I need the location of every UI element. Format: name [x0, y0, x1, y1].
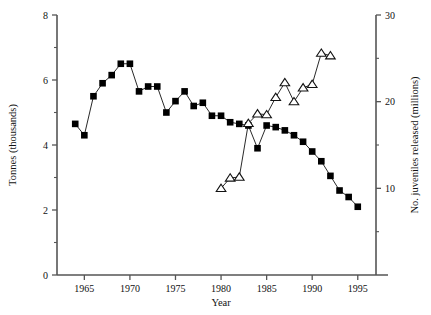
data-point-square [236, 121, 243, 128]
y-ticklabel-left: 2 [43, 205, 48, 216]
data-point-square [327, 173, 334, 180]
data-point-square [291, 132, 298, 139]
data-point-square [200, 99, 207, 106]
data-point-square [181, 88, 188, 95]
y-axis-label-left: Tonnes (thousands) [7, 104, 19, 186]
data-point-square [300, 138, 307, 145]
data-point-square [309, 148, 316, 155]
data-point-square [190, 103, 197, 110]
x-ticklabel: 1995 [348, 283, 368, 294]
data-point-square [172, 98, 179, 105]
data-point-square [209, 112, 216, 119]
data-point-square [318, 158, 325, 165]
data-point-triangle [271, 93, 281, 100]
y-ticklabel-right: 30 [385, 10, 395, 21]
data-point-square [272, 124, 279, 131]
x-ticklabel: 1985 [257, 283, 277, 294]
data-point-square [72, 121, 79, 128]
x-ticklabel: 1980 [211, 283, 231, 294]
data-point-square [218, 112, 225, 119]
data-point-triangle [298, 84, 308, 91]
data-point-square [118, 60, 125, 67]
data-point-square [127, 60, 134, 67]
data-point-square [227, 119, 234, 126]
x-ticklabel: 1975 [165, 283, 185, 294]
data-point-square [108, 72, 115, 79]
data-point-square [136, 88, 143, 95]
data-point-triangle [317, 49, 327, 56]
x-axis-label: Year [211, 297, 231, 308]
y-ticklabel-left: 8 [43, 10, 48, 21]
chart-figure: 024681020301965197019751980198519901995Y… [0, 0, 431, 315]
data-point-square [99, 80, 106, 87]
data-point-square [354, 203, 361, 210]
data-point-square [145, 83, 152, 90]
data-point-square [345, 194, 352, 201]
x-ticklabel: 1970 [120, 283, 140, 294]
data-point-square [254, 145, 261, 152]
y-ticklabel-right: 20 [385, 96, 395, 107]
data-point-triangle [289, 97, 299, 104]
data-point-triangle [253, 110, 263, 117]
y-ticklabel-left: 4 [43, 140, 48, 151]
x-ticklabel: 1965 [74, 283, 94, 294]
data-point-square [163, 109, 170, 116]
data-point-triangle [216, 184, 226, 191]
data-point-square [263, 122, 270, 129]
data-point-square [90, 93, 97, 100]
data-point-square [282, 127, 289, 134]
data-point-square [336, 187, 343, 194]
data-point-triangle [307, 80, 317, 87]
data-point-square [154, 83, 161, 90]
y-ticklabel-right: 10 [385, 183, 395, 194]
data-point-triangle [280, 78, 290, 85]
data-point-triangle [234, 173, 244, 180]
chart-svg: 024681020301965197019751980198519901995Y… [0, 0, 431, 315]
y-ticklabel-left: 0 [43, 270, 48, 281]
x-ticklabel: 1990 [302, 283, 322, 294]
y-axis-label-right: No. juveniles released (millions) [409, 76, 421, 214]
data-point-square [81, 132, 88, 139]
y-ticklabel-left: 6 [43, 75, 48, 86]
